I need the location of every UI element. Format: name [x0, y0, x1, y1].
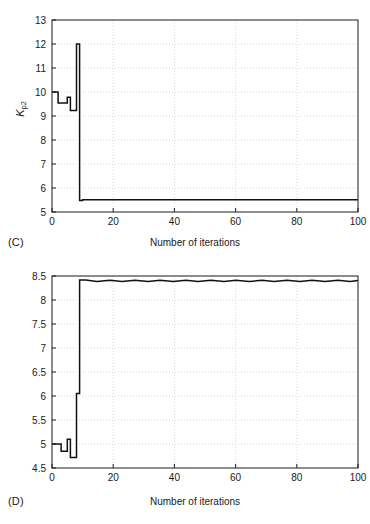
y-tick-label: 8.5: [32, 271, 46, 282]
x-tick-label: 20: [108, 216, 120, 227]
y-tick-label: 13: [35, 15, 47, 26]
y-tick-label: 7: [40, 159, 46, 170]
y-tick-label: 5.5: [32, 415, 46, 426]
y-axis-label-subscript: p2: [19, 101, 28, 109]
x-tick-label: 40: [169, 472, 181, 483]
grid-lines-d: [52, 276, 358, 468]
panel-label-d: (D): [8, 495, 24, 507]
y-tick-label: 6: [40, 391, 46, 402]
y-tick-label: 5: [40, 439, 46, 450]
y-tick-label: 6: [40, 183, 46, 194]
plot-svg-c: 5 6 7 8 9 10 11 12 13 0 20 40 60 80 100: [0, 0, 370, 262]
x-tick-label: 60: [230, 216, 242, 227]
grid-lines-c: [52, 20, 358, 212]
x-tick-label: 100: [350, 472, 367, 483]
y-tick-labels-c: 5 6 7 8 9 10 11 12 13: [35, 15, 47, 218]
y-tick-label: 11: [36, 63, 47, 74]
x-tick-labels-c: 0 20 40 60 80 100: [49, 216, 367, 227]
y-tick-label: 8: [40, 135, 46, 146]
y-tick-label: 12: [35, 39, 47, 50]
plot-panel-c: 5 6 7 8 9 10 11 12 13 0 20 40 60 80 100 …: [0, 0, 370, 262]
x-tick-label: 100: [350, 216, 367, 227]
x-tick-label: 60: [230, 472, 242, 483]
panel-label-c: (C): [8, 236, 24, 248]
x-axis-label-d: Number of iterations: [45, 496, 345, 507]
x-tick-labels-d: 0 20 40 60 80 100: [49, 472, 367, 483]
y-tick-label: 8: [40, 295, 46, 306]
y-tick-label: 7.5: [32, 319, 46, 330]
y-tick-label: 5: [40, 207, 46, 218]
x-axis-label-c: Number of iterations: [45, 237, 345, 248]
data-series-kp2: [52, 44, 358, 201]
y-tick-label: 6.5: [32, 367, 46, 378]
y-tick-label: 10: [35, 87, 47, 98]
plot-panel-d: 4.5 5 5.5 6 6.5 7 7.5 8 8.5 0 20 40 60 8…: [0, 262, 370, 524]
x-tick-label: 80: [291, 216, 303, 227]
y-tick-label: 4.5: [32, 463, 46, 474]
x-tick-label: 80: [291, 472, 303, 483]
y-axis-label-symbol: K: [14, 110, 26, 117]
plot-svg-d: 4.5 5 5.5 6 6.5 7 7.5 8 8.5 0 20 40 60 8…: [0, 262, 370, 524]
y-axis-label-c: Kp2: [14, 93, 26, 125]
y-tick-label: 9: [40, 111, 46, 122]
data-series-kd2: [52, 280, 358, 457]
y-tick-labels-d: 4.5 5 5.5 6 6.5 7 7.5 8 8.5: [32, 271, 46, 474]
x-tick-label: 20: [108, 472, 120, 483]
x-tick-label: 40: [169, 216, 181, 227]
figure-container: 5 6 7 8 9 10 11 12 13 0 20 40 60 80 100 …: [0, 0, 370, 524]
x-tick-label: 0: [49, 472, 55, 483]
y-tick-label: 7: [40, 343, 46, 354]
x-tick-label: 0: [49, 216, 55, 227]
